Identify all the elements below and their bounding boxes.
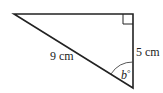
angle-label: b° (121, 68, 131, 82)
right-angle-marker (123, 14, 133, 24)
vertical-side-label: 5 cm (136, 45, 160, 59)
triangle-diagram: 9 cm 5 cm b° (0, 0, 163, 93)
hypotenuse-label: 9 cm (50, 49, 74, 63)
